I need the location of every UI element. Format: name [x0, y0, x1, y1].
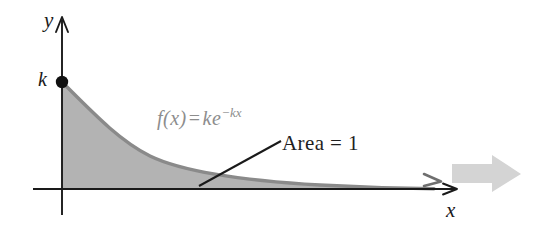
formula-prefix: f(x) [157, 107, 187, 129]
y-intercept-label: k [38, 68, 47, 91]
y-intercept-point [56, 76, 68, 88]
infinity-block-arrow [452, 155, 521, 192]
formula-equals: = [187, 107, 203, 129]
formula-exponent: −kx [221, 105, 241, 120]
area-annotation-label: Area = 1 [282, 131, 359, 156]
function-formula-label: f(x)=ke−kx [157, 105, 242, 130]
curve-tail-arrowhead [424, 174, 441, 186]
figure-container: y x k f(x)=ke−kx Area = 1 [0, 0, 533, 236]
x-axis-label: x [446, 198, 455, 223]
y-axis-label: y [44, 8, 53, 33]
formula-base: ke [203, 107, 222, 129]
